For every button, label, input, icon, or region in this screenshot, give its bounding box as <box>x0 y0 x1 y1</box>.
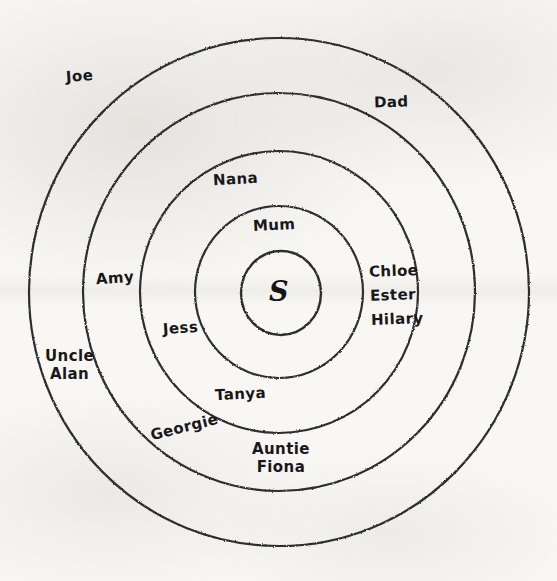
person-label-dad: Dad <box>374 93 409 112</box>
person-label-auntie-fiona: AuntieFiona <box>252 441 310 476</box>
person-label-joe: Joe <box>65 67 93 87</box>
concentric-circles-diagram: JoeDadUncleAlanGeorgieAmyNanaJessAuntieF… <box>0 0 557 581</box>
person-label-uncle-alan: UncleAlan <box>45 348 94 383</box>
person-label-ester: Ester <box>370 286 417 305</box>
person-label-amy: Amy <box>95 269 134 289</box>
person-label-chloe: Chloe <box>369 262 419 281</box>
person-label-tanya: Tanya <box>215 385 267 405</box>
core-label-self: S <box>269 278 289 305</box>
person-label-jess: Jess <box>162 319 198 339</box>
person-label-nana: Nana <box>213 170 259 190</box>
person-label-hilary: Hilary <box>371 310 424 330</box>
person-label-mum: Mum <box>253 216 296 236</box>
